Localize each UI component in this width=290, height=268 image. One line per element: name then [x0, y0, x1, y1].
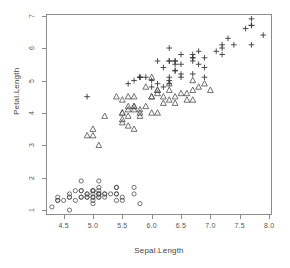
- x-tick-mark: [93, 215, 94, 219]
- data-point: [213, 48, 219, 54]
- data-point: [249, 23, 255, 29]
- data-point: [62, 198, 66, 202]
- data-point: [249, 16, 255, 22]
- data-point: [67, 208, 71, 212]
- data-point: [119, 97, 125, 102]
- data-point: [166, 87, 172, 92]
- data-point: [84, 94, 90, 100]
- data-point: [184, 97, 190, 102]
- data-point: [172, 100, 178, 105]
- data-point: [202, 74, 208, 80]
- data-points-layer: [46, 14, 272, 215]
- data-point: [178, 52, 184, 58]
- x-tick-label: 8.0: [264, 222, 274, 229]
- data-point: [190, 55, 196, 61]
- y-tick-mark: [42, 16, 46, 17]
- x-axis-title: Sepal.Length: [134, 246, 184, 255]
- data-point: [249, 42, 255, 48]
- data-point: [190, 87, 196, 92]
- data-point: [172, 94, 178, 99]
- x-tick-mark: [181, 215, 182, 219]
- series-versicolor: [84, 74, 213, 148]
- x-tick-label: 4.5: [58, 222, 68, 229]
- data-point: [50, 205, 54, 209]
- data-point: [96, 142, 102, 147]
- data-point: [125, 81, 131, 87]
- data-point: [184, 90, 190, 95]
- data-point: [166, 58, 172, 64]
- data-point: [114, 185, 118, 189]
- data-point: [172, 61, 178, 67]
- data-point: [190, 71, 196, 77]
- data-point: [131, 126, 137, 131]
- y-tick-label: 4: [28, 106, 35, 120]
- data-point: [114, 192, 118, 196]
- data-point: [79, 189, 83, 193]
- data-point: [73, 198, 77, 202]
- data-point: [178, 90, 184, 95]
- y-tick-label: 5: [28, 74, 35, 88]
- x-tick-mark: [64, 215, 65, 219]
- data-point: [143, 74, 149, 80]
- x-tick-mark: [269, 215, 270, 219]
- y-tick-label: 1: [28, 203, 35, 217]
- y-tick-label: 7: [28, 9, 35, 23]
- data-point: [161, 65, 167, 71]
- data-point: [131, 78, 137, 84]
- data-point: [196, 48, 202, 54]
- data-point: [260, 32, 266, 38]
- data-point: [166, 78, 172, 84]
- data-point: [155, 110, 161, 115]
- data-point: [219, 52, 225, 58]
- data-point: [166, 97, 172, 102]
- data-point: [178, 71, 184, 77]
- data-point: [225, 35, 231, 41]
- y-tick-mark: [42, 210, 46, 211]
- data-point: [97, 179, 101, 183]
- y-tick-mark: [42, 113, 46, 114]
- data-points-svg: [46, 14, 272, 215]
- y-tick-label: 6: [28, 41, 35, 55]
- data-point: [243, 26, 249, 32]
- x-tick-label: 7.5: [235, 222, 245, 229]
- data-point: [138, 202, 142, 206]
- series-setosa: [50, 179, 142, 212]
- x-tick-mark: [210, 215, 211, 219]
- data-point: [143, 103, 149, 108]
- y-tick-mark: [42, 81, 46, 82]
- y-axis-title: Petal.Length: [12, 68, 21, 115]
- data-point: [149, 84, 155, 90]
- x-tick-label: 5.5: [117, 222, 127, 229]
- data-point: [125, 94, 131, 99]
- data-point: [190, 77, 196, 82]
- y-tick-mark: [42, 48, 46, 49]
- data-point: [161, 84, 167, 90]
- x-tick-label: 7.0: [205, 222, 215, 229]
- y-tick-label: 2: [28, 171, 35, 185]
- x-tick-mark: [240, 215, 241, 219]
- data-point: [79, 195, 83, 199]
- data-point: [137, 74, 143, 80]
- data-point: [102, 113, 108, 118]
- data-point: [125, 123, 131, 128]
- data-point: [149, 94, 155, 99]
- data-point: [161, 94, 167, 99]
- x-tick-label: 5.0: [88, 222, 98, 229]
- y-tick-mark: [42, 145, 46, 146]
- scatter-plot: 4.55.05.56.06.57.07.58.0 1234567 Sepal.L…: [0, 0, 290, 268]
- data-point: [202, 55, 208, 61]
- data-point: [196, 61, 202, 67]
- data-point: [202, 65, 208, 71]
- data-point: [108, 192, 112, 196]
- data-point: [79, 179, 83, 183]
- data-point: [90, 126, 96, 131]
- y-tick-label: 3: [28, 138, 35, 152]
- data-point: [119, 110, 125, 115]
- data-point: [73, 189, 77, 193]
- data-point: [190, 97, 196, 102]
- data-point: [161, 100, 167, 105]
- data-point: [207, 87, 213, 92]
- data-point: [219, 45, 225, 51]
- data-point: [202, 81, 208, 86]
- x-tick-mark: [122, 215, 123, 219]
